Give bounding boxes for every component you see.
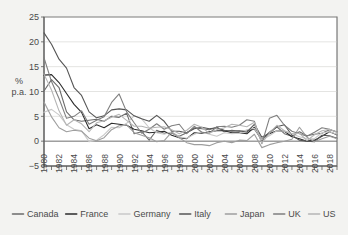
- x-tick-label: 2014: [295, 154, 305, 173]
- y-tick-label: 20: [29, 37, 39, 47]
- x-tick-label: 1984: [69, 154, 79, 173]
- legend-label-france: France: [80, 209, 108, 219]
- x-tick-label: 2012: [280, 154, 290, 173]
- x-tick-label: 2018: [325, 154, 335, 173]
- y-tick-label: 15: [29, 62, 39, 72]
- legend-label-canada: Canada: [27, 209, 59, 219]
- x-tick-label: 1992: [130, 154, 140, 173]
- y-axis-label: p.a.: [11, 87, 26, 97]
- x-tick-label: 1986: [84, 154, 94, 173]
- y-tick-label: 0: [34, 136, 39, 146]
- x-tick-label: 2008: [250, 154, 260, 173]
- x-tick-label: 2000: [190, 154, 200, 173]
- chart-figure: −50510152025%p.a.19801982198419861988199…: [0, 0, 348, 235]
- inflation-line-chart: −50510152025%p.a.19801982198419861988199…: [0, 0, 348, 235]
- legend-label-uk: UK: [288, 209, 301, 219]
- x-tick-label: 2010: [265, 154, 275, 173]
- legend-label-italy: Italy: [194, 209, 211, 219]
- x-tick-label: 1990: [115, 154, 125, 173]
- legend-label-us: US: [323, 209, 336, 219]
- x-tick-label: 2016: [310, 154, 320, 173]
- y-tick-label: 25: [29, 12, 39, 22]
- y-tick-label: 10: [29, 87, 39, 97]
- legend-label-japan: Japan: [240, 209, 265, 219]
- y-tick-label: −5: [29, 161, 39, 171]
- x-tick-label: 1982: [54, 154, 64, 173]
- x-tick-label: 1996: [160, 154, 170, 173]
- x-tick-label: 2002: [205, 154, 215, 173]
- x-tick-label: 2004: [220, 154, 230, 173]
- x-tick-label: 1994: [145, 154, 155, 173]
- y-axis-label: %: [15, 76, 23, 86]
- x-tick-label: 1980: [39, 154, 49, 173]
- x-tick-label: 1998: [175, 154, 185, 173]
- x-tick-label: 1988: [100, 154, 110, 173]
- legend-label-germany: Germany: [133, 209, 171, 219]
- x-tick-label: 2006: [235, 154, 245, 173]
- y-tick-label: 5: [34, 112, 39, 122]
